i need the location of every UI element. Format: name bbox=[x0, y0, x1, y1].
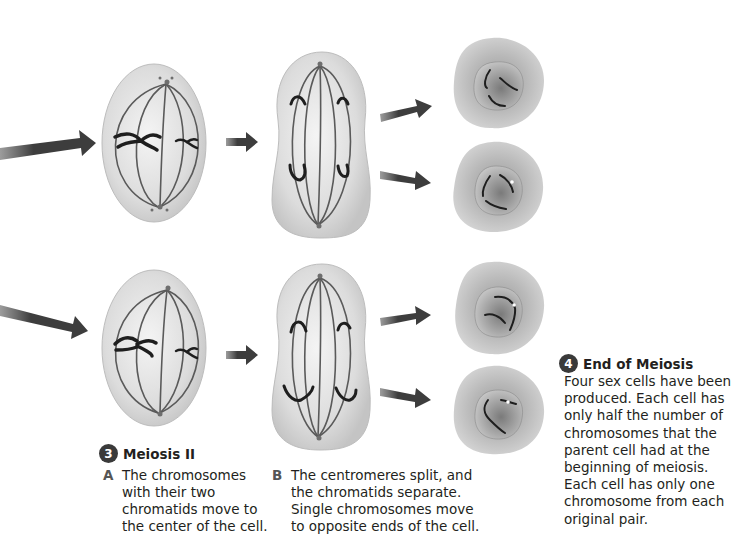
arrow-to-anaphase-top bbox=[226, 132, 258, 152]
section-3-title: Meiosis II bbox=[123, 446, 195, 462]
arrows-to-daughter-cells-top bbox=[380, 99, 432, 190]
step-b: B The centromeres split, and the chromat… bbox=[272, 467, 479, 535]
step-a: A The chromosomes with their two chromat… bbox=[103, 467, 267, 535]
sex-cell-4 bbox=[454, 366, 544, 454]
sex-cell-3 bbox=[455, 262, 544, 354]
sex-cell-1 bbox=[454, 38, 544, 128]
step-number-badge: 4 bbox=[559, 354, 578, 373]
section-4-title: End of Meiosis bbox=[583, 356, 693, 372]
anaphase-cell-bottom bbox=[272, 264, 370, 450]
step-number-badge: 3 bbox=[99, 444, 118, 463]
incoming-arrow-bottom bbox=[0, 305, 88, 339]
step-a-text: The chromosomes with their two chromatid… bbox=[122, 467, 267, 535]
step-b-text: The centromeres split, and the chromatid… bbox=[291, 467, 479, 535]
metaphase-cell-bottom bbox=[102, 270, 206, 426]
arrows-to-daughter-cells-bottom bbox=[380, 306, 431, 408]
incoming-arrow-top bbox=[0, 130, 96, 160]
metaphase-cell-top bbox=[102, 64, 206, 222]
sex-cell-2 bbox=[453, 142, 543, 232]
step-b-letter: B bbox=[272, 467, 284, 535]
anaphase-cell-top bbox=[272, 52, 370, 238]
arrow-to-anaphase-bottom bbox=[226, 345, 258, 365]
section-4-body: Four sex cells have been produced. Each … bbox=[564, 373, 731, 528]
section-4-heading: 4 End of Meiosis bbox=[559, 354, 693, 373]
step-a-letter: A bbox=[103, 467, 115, 535]
section-3-heading: 3 Meiosis II bbox=[99, 444, 195, 463]
